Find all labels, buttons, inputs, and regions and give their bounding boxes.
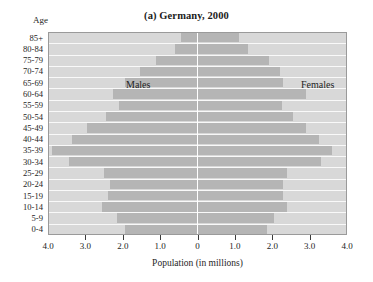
- age-tick-label: 5-9: [32, 213, 43, 223]
- bar-male: [119, 101, 197, 110]
- bar-female: [198, 202, 288, 211]
- plot-area: Males Females: [48, 32, 347, 235]
- bar-female: [198, 134, 319, 143]
- bar-male: [102, 202, 197, 211]
- x-axis-tick-label: 1.0: [229, 241, 240, 251]
- bar-female: [198, 55, 269, 64]
- bar-male: [117, 213, 197, 222]
- bar-male: [106, 112, 198, 121]
- chart-title: (a) Germany, 2000: [0, 10, 373, 21]
- x-axis-tick-label: 3.0: [304, 241, 315, 251]
- bar-female: [198, 213, 275, 222]
- x-axis-tick-label: 1.0: [155, 241, 166, 251]
- age-tick-label: 40-44: [23, 134, 43, 144]
- age-tick-label: 0-4: [32, 224, 43, 234]
- bar-female: [198, 89, 306, 98]
- age-tick-label: 60-64: [23, 89, 43, 99]
- bar-female: [198, 33, 239, 42]
- x-axis-tick: [160, 235, 161, 240]
- bar-female: [198, 146, 333, 155]
- bar-male: [125, 225, 198, 234]
- bar-male: [72, 134, 197, 143]
- bar-female: [198, 112, 293, 121]
- x-axis-tick: [85, 235, 86, 240]
- bar-female: [198, 78, 284, 87]
- age-axis-header: Age: [14, 15, 48, 25]
- bar-male: [87, 123, 197, 132]
- x-axis-tick-labels: 4.03.02.01.001.02.03.04.0: [48, 241, 347, 255]
- age-tick-label: 15-19: [23, 191, 43, 201]
- age-tick-label: 30-34: [23, 157, 43, 167]
- bar-female: [198, 67, 280, 76]
- bar-female: [198, 157, 321, 166]
- x-axis-tick-label: 3.0: [80, 241, 91, 251]
- x-axis-tick: [310, 235, 311, 240]
- x-axis-tick-label: 4.0: [341, 241, 352, 251]
- population-pyramid-chart: (a) Germany, 2000 Age 85+80-8475-7970-74…: [0, 0, 373, 282]
- bar-male: [175, 44, 197, 53]
- x-axis-title: Population (in millions): [48, 258, 347, 268]
- bar-female: [198, 44, 248, 53]
- x-axis-tick-label: 2.0: [267, 241, 278, 251]
- bar-female: [198, 101, 282, 110]
- bar-male: [69, 157, 198, 166]
- x-axis-tick: [198, 235, 199, 240]
- center-axis-line: [197, 32, 198, 235]
- age-tick-label: 20-24: [23, 179, 43, 189]
- bar-male: [52, 146, 198, 155]
- bar-female: [198, 191, 284, 200]
- age-tick-label: 75-79: [23, 55, 43, 65]
- bar-male: [140, 67, 198, 76]
- age-tick-label: 55-59: [23, 100, 43, 110]
- age-tick-label: 45-49: [23, 123, 43, 133]
- age-tick-labels: 85+80-8475-7970-7465-6960-6455-5950-5445…: [0, 32, 45, 235]
- bar-female: [198, 180, 284, 189]
- bar-male: [113, 89, 197, 98]
- x-axis-tick-label: 2.0: [117, 241, 128, 251]
- age-tick-label: 65-69: [23, 78, 43, 88]
- x-axis-tick-label: 4.0: [42, 241, 53, 251]
- x-axis-tick: [235, 235, 236, 240]
- series-label-females: Females: [301, 79, 334, 90]
- x-axis-tick: [272, 235, 273, 240]
- x-axis-tick-label: 0: [195, 241, 200, 251]
- age-tick-label: 80-84: [23, 44, 43, 54]
- bar-female: [198, 225, 267, 234]
- bar-female: [198, 168, 288, 177]
- age-tick-label: 50-54: [23, 112, 43, 122]
- bar-male: [181, 33, 198, 42]
- age-tick-label: 10-14: [23, 202, 43, 212]
- x-axis-tick: [123, 235, 124, 240]
- bar-female: [198, 123, 306, 132]
- age-tick-label: 25-29: [23, 168, 43, 178]
- age-tick-label: 35-39: [23, 145, 43, 155]
- bar-male: [110, 180, 198, 189]
- bar-male: [104, 168, 197, 177]
- age-tick-label: 70-74: [23, 66, 43, 76]
- bar-male: [108, 191, 198, 200]
- age-tick-label: 85+: [30, 33, 43, 43]
- bar-male: [156, 55, 197, 64]
- series-label-males: Males: [126, 79, 150, 90]
